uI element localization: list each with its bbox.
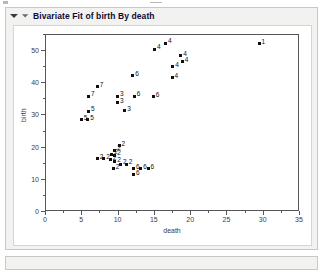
scatter-point-label: 2 <box>116 164 120 171</box>
plot-card: 0102030405005101520253035144444466677333… <box>13 25 312 246</box>
scatter-point-marker <box>116 101 119 104</box>
scatter-point-marker <box>131 74 134 77</box>
x-axis-minor-tick <box>63 211 64 213</box>
scatter-point-marker <box>258 42 261 45</box>
x-axis-tick-label: 20 <box>186 216 194 223</box>
scatter-point-marker <box>147 167 150 170</box>
y-axis-minor-tick <box>43 131 45 132</box>
scatter-point-marker <box>86 118 89 121</box>
y-axis-minor-tick <box>43 66 45 67</box>
scatter-point-label: 4 <box>168 38 172 45</box>
y-axis-minor-tick <box>43 34 45 35</box>
x-axis-tick <box>154 211 155 215</box>
x-axis-tick <box>263 211 264 215</box>
report-title-bar: Bivariate Fit of birth By death <box>6 8 317 23</box>
scatter-point-label: 2 <box>122 141 126 148</box>
scatter-point-marker <box>116 95 119 98</box>
scatter-point-label: 4 <box>175 62 179 69</box>
y-axis-tick-label: 0 <box>35 208 39 215</box>
scatter-point-marker <box>125 163 128 166</box>
scatter-point-marker <box>153 48 156 51</box>
x-axis-minor-tick <box>136 211 137 213</box>
x-axis-title: death <box>45 227 299 234</box>
scatter-point-marker <box>96 157 99 160</box>
scatter-point-marker <box>87 95 90 98</box>
scatter-point-label: 1 <box>262 39 266 46</box>
scatter-point-label: 3 <box>127 106 131 113</box>
x-axis-minor-tick <box>99 211 100 213</box>
x-axis-tick-label: 0 <box>43 216 47 223</box>
x-axis-minor-tick <box>245 211 246 213</box>
scatter-point-marker <box>181 60 184 63</box>
x-axis-tick-label: 10 <box>114 216 122 223</box>
y-axis-tick <box>41 179 45 180</box>
scatter-point-label: 3 <box>120 98 124 105</box>
x-axis-tick-label: 35 <box>295 216 303 223</box>
x-axis-minor-tick <box>172 211 173 213</box>
y-axis-title: birth <box>20 108 27 122</box>
app-root: Bivariate Fit of birth By death 01020304… <box>0 0 324 273</box>
scatter-point-marker <box>80 118 83 121</box>
page-title: Bivariate Fit of birth By death <box>33 11 155 21</box>
y-axis-tick-label: 20 <box>31 143 39 150</box>
scatter-point-marker <box>171 76 174 79</box>
x-axis-tick <box>190 211 191 215</box>
y-axis-tick-label: 10 <box>31 175 39 182</box>
x-axis-tick <box>45 211 46 215</box>
scatter-plot-area[interactable]: 0102030405005101520253035144444466677333… <box>45 34 299 211</box>
scatter-point-marker <box>109 158 112 161</box>
scatter-point-label: 4 <box>175 73 179 80</box>
bottom-panel-strip <box>5 256 318 270</box>
scatter-point-marker <box>179 54 182 57</box>
x-axis-tick-label: 30 <box>259 216 267 223</box>
x-axis-tick-label: 15 <box>150 216 158 223</box>
x-axis-tick <box>81 211 82 215</box>
scatter-point-label: 7 <box>91 91 95 98</box>
scatter-point-marker <box>123 109 126 112</box>
scatter-point-marker <box>102 157 105 160</box>
y-axis-tick <box>41 82 45 83</box>
scatter-point-label: 7 <box>100 82 104 89</box>
x-axis-tick <box>299 211 300 215</box>
y-axis-minor-tick <box>43 163 45 164</box>
scatter-point-marker <box>87 110 90 113</box>
triangle-down-small-icon[interactable] <box>22 12 29 19</box>
scatter-point-marker <box>171 65 174 68</box>
scatter-point-label: 6 <box>135 71 139 78</box>
scatter-point-label: 2 <box>129 159 133 166</box>
y-axis-tick-label: 30 <box>31 111 39 118</box>
scatter-point-marker <box>133 95 136 98</box>
scatter-point-marker <box>132 167 135 170</box>
x-axis-tick <box>226 211 227 215</box>
scatter-point-marker <box>164 42 167 45</box>
scatter-point-marker <box>132 173 135 176</box>
x-axis-minor-tick <box>281 211 282 213</box>
y-axis-minor-tick <box>43 195 45 196</box>
artifact-speck <box>3 1 8 4</box>
x-axis-tick-label: 25 <box>223 216 231 223</box>
x-axis-tick <box>118 211 119 215</box>
scatter-point-label: 4 <box>185 57 189 64</box>
scatter-point-label: 6 <box>137 91 141 98</box>
artifact-speck <box>150 2 162 3</box>
y-axis-tick <box>41 50 45 51</box>
scatter-point-marker <box>96 85 99 88</box>
y-axis-tick-label: 50 <box>31 47 39 54</box>
scatter-point-label: 5 <box>91 106 95 113</box>
x-axis-minor-tick <box>208 211 209 213</box>
scatter-point-marker <box>112 167 115 170</box>
y-axis-tick <box>41 114 45 115</box>
y-axis-tick <box>41 147 45 148</box>
y-axis-tick-label: 40 <box>31 79 39 86</box>
y-axis-minor-tick <box>43 98 45 99</box>
report-panel: Bivariate Fit of birth By death 01020304… <box>5 7 318 250</box>
triangle-down-icon[interactable] <box>10 11 19 20</box>
scatter-point-label: 5 <box>90 115 94 122</box>
scatter-point-label: 6 <box>151 164 155 171</box>
x-axis-tick-label: 5 <box>79 216 83 223</box>
scatter-point-marker <box>152 95 155 98</box>
scatter-point-label: 4 <box>157 44 161 51</box>
scatter-point-marker <box>119 163 122 166</box>
scatter-point-label: 6 <box>136 170 140 177</box>
scatter-point-label: 6 <box>156 92 160 99</box>
